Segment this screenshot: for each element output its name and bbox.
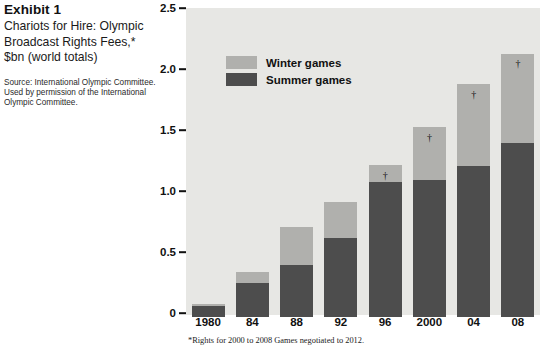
caption-block: Exhibit 1 Chariots for Hire: Olympic Bro… — [4, 2, 156, 109]
y-tick-mark — [179, 129, 186, 131]
y-tick-label: 2.5 — [160, 2, 176, 14]
bar-segment-summer — [236, 283, 269, 317]
bar-segment-winter — [280, 227, 313, 265]
chart-footnote: *Rights for 2000 to 2008 Games negotiate… — [188, 336, 364, 346]
x-tick-label: 88 — [275, 316, 319, 328]
dagger-annotation-icon: † — [501, 59, 534, 69]
exhibit-label: Exhibit 1 — [4, 2, 156, 17]
bar-stack — [324, 202, 357, 317]
x-tick-label: 2000 — [407, 316, 451, 328]
x-tick-label: 1980 — [186, 316, 230, 328]
legend-swatch-summer-icon — [226, 73, 257, 86]
chart-panel: †††† Winter games Summer games — [186, 8, 540, 315]
bar-stack — [280, 227, 313, 317]
y-tick-mark — [179, 190, 186, 192]
bar-stack: † — [457, 84, 490, 317]
bar-stack — [236, 272, 269, 317]
dagger-annotation-icon: † — [369, 171, 402, 181]
x-axis: 19808488929620000408 — [186, 316, 540, 334]
bar-segment-winter — [324, 202, 357, 237]
bar-segment-winter — [236, 272, 269, 283]
page-title: Chariots for Hire: Olympic Broadcast Rig… — [4, 19, 156, 66]
bar-segment-winter — [192, 304, 225, 306]
legend-label-winter: Winter games — [266, 57, 341, 69]
dagger-annotation-icon: † — [457, 90, 490, 100]
x-tick-label: 04 — [452, 316, 496, 328]
chart-legend: Winter games Summer games — [226, 56, 352, 90]
dagger-annotation-icon: † — [413, 133, 446, 143]
bar-stack: † — [369, 165, 402, 318]
y-tick-mark — [179, 7, 186, 9]
bar-segment-summer — [413, 180, 446, 317]
x-tick-label: 08 — [496, 316, 540, 328]
bar-segment-summer — [280, 265, 313, 317]
y-tick-mark — [179, 312, 186, 314]
y-tick-label: 2.0 — [160, 63, 176, 75]
legend-swatch-winter-icon — [226, 56, 257, 69]
y-tick-label: 1.5 — [160, 124, 176, 136]
bar-segment-summer — [324, 238, 357, 317]
bar-segment-summer — [501, 143, 534, 317]
legend-label-summer: Summer games — [266, 74, 352, 86]
y-tick-label: 0 — [170, 307, 176, 319]
y-tick-label: 1.0 — [160, 185, 176, 197]
legend-item-winter: Winter games — [226, 56, 352, 69]
x-tick-label: 84 — [230, 316, 274, 328]
bar-stack: † — [413, 127, 446, 317]
plot-area: †††† — [186, 8, 540, 315]
y-tick-mark — [179, 68, 186, 70]
legend-item-summer: Summer games — [226, 73, 352, 86]
source-note: Source: International Olympic Committee.… — [4, 78, 156, 109]
y-axis: 00.51.01.52.02.5 — [150, 0, 186, 351]
y-tick-mark — [179, 251, 186, 253]
bar-stack: † — [501, 53, 534, 317]
bar-stack — [192, 304, 225, 317]
bar-segment-summer — [457, 166, 490, 317]
y-tick-label: 0.5 — [160, 246, 176, 258]
x-tick-label: 92 — [319, 316, 363, 328]
bar-segment-summer — [369, 182, 402, 317]
x-tick-label: 96 — [363, 316, 407, 328]
